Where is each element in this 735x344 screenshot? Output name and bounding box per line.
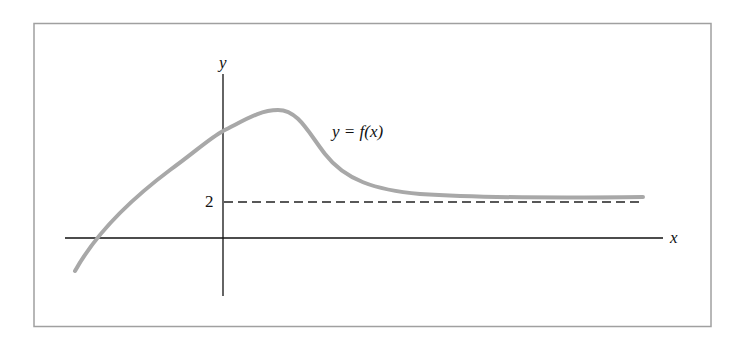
figure-frame: [34, 24, 711, 327]
asymptote-tick-label: 2: [205, 192, 214, 211]
y-axis-label: y: [217, 53, 227, 72]
x-axis-label: x: [669, 228, 678, 247]
function-graph: y x 2 y = f(x): [0, 0, 735, 344]
curve-label: y = f(x): [330, 122, 383, 141]
